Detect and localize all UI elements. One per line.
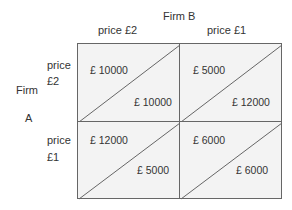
payoff-firm-b: £ 6000 bbox=[236, 164, 268, 176]
payoff-firm-b: £ 10000 bbox=[134, 96, 172, 108]
row-strategy-2-line1: price bbox=[47, 134, 71, 146]
payoff-cell-r1-c2: £ 5000 £ 12000 bbox=[179, 43, 282, 122]
payoff-firm-b: £ 5000 bbox=[137, 164, 169, 176]
col-player-label: Firm B bbox=[163, 10, 195, 22]
payoff-firm-a: £ 12000 bbox=[90, 134, 128, 146]
diagonal-divider bbox=[78, 44, 181, 123]
col-strategy-2: price £1 bbox=[207, 24, 246, 36]
payoff-firm-a: £ 5000 bbox=[193, 64, 225, 76]
payoff-firm-a: £ 10000 bbox=[90, 64, 128, 76]
row-strategy-2-line2: £1 bbox=[47, 151, 59, 163]
row-player-label-line1: Firm bbox=[16, 84, 38, 96]
payoff-firm-b: £ 12000 bbox=[232, 96, 270, 108]
row-player-label-line2: A bbox=[25, 112, 32, 124]
col-strategy-1: price £2 bbox=[98, 24, 137, 36]
payoff-cell-r2-c1: £ 12000 £ 5000 bbox=[77, 121, 180, 199]
payoff-firm-a: £ 6000 bbox=[193, 134, 225, 146]
payoff-cell-r1-c1: £ 10000 £ 10000 bbox=[77, 43, 180, 122]
row-strategy-1-line1: price bbox=[47, 59, 71, 71]
diagonal-divider bbox=[180, 44, 283, 123]
payoff-cell-r2-c2: £ 6000 £ 6000 bbox=[179, 121, 282, 199]
row-strategy-1-line2: £2 bbox=[47, 75, 59, 87]
